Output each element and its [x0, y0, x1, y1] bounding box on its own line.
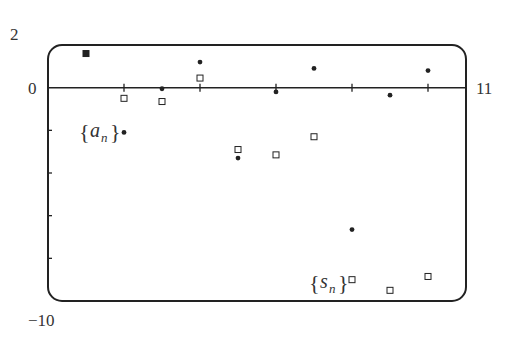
plot-frame	[48, 45, 466, 301]
axis-labels: 2 0 −10 11	[10, 25, 492, 330]
a-point	[122, 130, 127, 135]
s-point	[349, 277, 355, 283]
a-point	[388, 93, 393, 98]
s-point	[197, 75, 203, 81]
svg-text:{: {	[79, 119, 90, 144]
series-s-label: { s n }	[309, 270, 349, 296]
series-s-name: s	[320, 270, 328, 292]
a-point	[274, 90, 279, 95]
a-point	[350, 227, 355, 232]
frame-border	[48, 45, 466, 301]
svg-text:{: {	[309, 270, 320, 295]
series-s-sub: n	[329, 281, 336, 296]
svg-text:}: }	[110, 119, 121, 144]
a-point	[236, 156, 241, 161]
a-point	[198, 60, 203, 65]
s-point	[273, 152, 279, 158]
s-point	[121, 95, 127, 101]
series-a-name: a	[90, 119, 100, 141]
sequence-chart: 2 0 −10 11 { a n } { s n }	[0, 0, 515, 338]
s-point	[83, 51, 89, 57]
s-point	[235, 147, 241, 153]
a-point	[312, 66, 317, 71]
s-point	[387, 287, 393, 293]
a-point	[426, 68, 431, 73]
y-top-label: 2	[10, 25, 19, 44]
y-zero-label: 0	[28, 79, 37, 98]
svg-text:}: }	[338, 270, 349, 295]
s-point	[159, 99, 165, 105]
y-bottom-label: −10	[28, 311, 55, 330]
a-point	[160, 86, 165, 91]
series-a-label: { a n }	[79, 119, 121, 145]
series-a-sub: n	[101, 130, 108, 145]
s-point	[311, 134, 317, 140]
s-point	[425, 273, 431, 279]
x-right-label: 11	[476, 79, 492, 98]
